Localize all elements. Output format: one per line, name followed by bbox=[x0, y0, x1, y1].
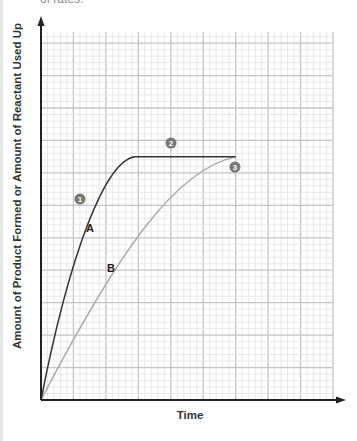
curve-label-a: A bbox=[86, 222, 94, 234]
x-axis-label: Time bbox=[160, 409, 220, 421]
chart-grid bbox=[41, 32, 333, 400]
x-axis-arrow-icon bbox=[336, 397, 346, 404]
svg-text:2: 2 bbox=[169, 139, 174, 148]
svg-text:1: 1 bbox=[78, 195, 83, 204]
chart-svg: 123 bbox=[0, 0, 357, 441]
curve-label-b: B bbox=[107, 262, 115, 274]
y-axis-label: Amount of Product Formed or Amount of Re… bbox=[11, 79, 23, 349]
svg-text:3: 3 bbox=[233, 163, 238, 172]
y-axis-arrow-icon bbox=[38, 16, 45, 26]
